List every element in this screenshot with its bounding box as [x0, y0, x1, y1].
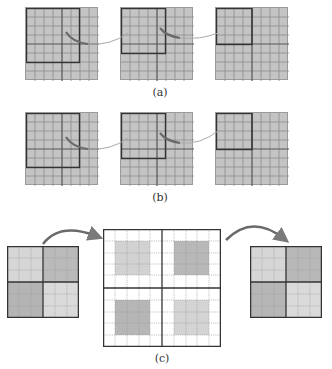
- grid-b-1: [25, 112, 98, 185]
- grid-a-3: [215, 7, 288, 80]
- grid-c-center: [103, 229, 221, 347]
- grid-lines: [121, 8, 194, 81]
- padded-grid: [103, 229, 221, 347]
- arrow-c-right: [226, 226, 283, 240]
- grid-lines: [216, 113, 289, 186]
- grid-c-right: [250, 246, 322, 318]
- grid-a-1: [25, 7, 98, 80]
- grid-b-3: [215, 112, 288, 185]
- grid-lines: [26, 8, 99, 81]
- quad-grid: [7, 246, 79, 318]
- arrow-c-left: [43, 231, 96, 244]
- quad-grid: [250, 246, 322, 318]
- caption-c: (c): [142, 352, 182, 365]
- grid-a-2: [120, 7, 193, 80]
- grid-lines: [121, 113, 194, 186]
- caption-a: (a): [140, 86, 180, 99]
- caption-b: (b): [140, 191, 180, 204]
- grid-lines: [216, 8, 289, 81]
- grid-c-left: [7, 246, 79, 318]
- grid-lines: [26, 113, 99, 186]
- grid-b-2: [120, 112, 193, 185]
